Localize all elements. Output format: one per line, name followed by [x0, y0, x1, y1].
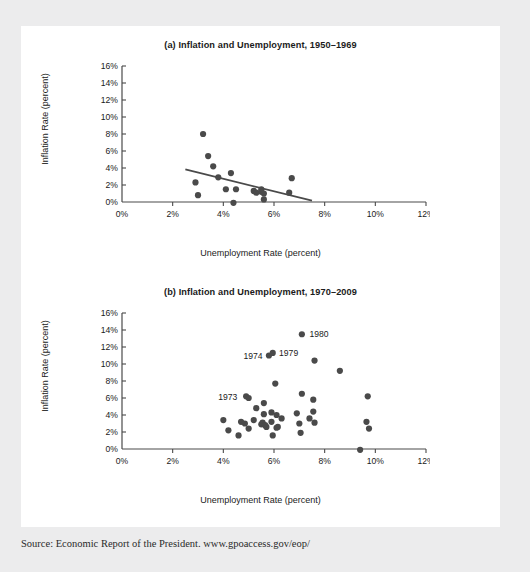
data-point	[270, 432, 276, 438]
data-point	[230, 200, 236, 206]
data-point	[200, 131, 206, 137]
source-note: Source: Economic Report of the President…	[21, 538, 310, 549]
point-annotation-label: 1980	[309, 329, 328, 339]
chart-a-plot-area: 0%2%4%6%8%10%12%0%2%4%6%8%10%12%14%16%	[100, 60, 430, 226]
data-point	[306, 415, 312, 421]
y-tick-label: 12%	[101, 95, 119, 105]
trend-line	[185, 169, 312, 200]
point-annotation-label: 1979	[279, 348, 298, 358]
data-point	[366, 426, 372, 432]
data-point	[273, 412, 279, 418]
data-point	[268, 419, 274, 425]
x-tick-label: 12%	[417, 456, 430, 466]
data-point	[310, 409, 316, 415]
chart-a-y-axis-label: Inflation Rate (percent)	[40, 49, 50, 189]
chart-b-title: (b) Inflation and Unemployment, 1970–200…	[21, 287, 500, 297]
x-tick-label: 6%	[268, 456, 281, 466]
x-tick-label: 4%	[217, 209, 230, 219]
data-point	[215, 174, 221, 180]
y-tick-label: 6%	[106, 393, 119, 403]
chart-b-x-axis-label: Unemployment Rate (percent)	[21, 495, 500, 505]
x-tick-label: 2%	[166, 456, 179, 466]
data-point	[220, 417, 226, 423]
x-tick-label: 0%	[116, 456, 129, 466]
y-tick-label: 10%	[101, 359, 119, 369]
chart-panel-b: (b) Inflation and Unemployment, 1970–200…	[21, 273, 500, 527]
y-tick-label: 6%	[106, 146, 119, 156]
y-tick-label: 16%	[101, 61, 119, 71]
data-point	[363, 419, 369, 425]
x-tick-label: 8%	[318, 209, 331, 219]
data-point	[205, 153, 211, 159]
chart-b-plot-area: 0%2%4%6%8%10%12%0%2%4%6%8%10%12%14%16%19…	[100, 307, 430, 473]
y-tick-label: 14%	[101, 78, 119, 88]
data-point	[225, 427, 231, 433]
y-tick-label: 2%	[106, 180, 119, 190]
chart-a-x-axis-label: Unemployment Rate (percent)	[21, 248, 500, 258]
data-point	[223, 186, 229, 192]
data-point	[192, 179, 198, 185]
chart-panel-a: (a) Inflation and Unemployment, 1950–196…	[21, 26, 500, 278]
data-point	[286, 190, 292, 196]
data-point	[357, 447, 363, 453]
page-background: (a) Inflation and Unemployment, 1950–196…	[0, 0, 530, 572]
y-tick-label: 8%	[106, 376, 119, 386]
x-tick-label: 10%	[367, 209, 385, 219]
x-tick-label: 12%	[417, 209, 430, 219]
data-point	[261, 196, 267, 202]
x-tick-label: 2%	[166, 209, 179, 219]
data-point	[253, 405, 259, 411]
point-annotation-label: 1974	[243, 351, 262, 361]
data-point	[296, 420, 302, 426]
chart-a-title: (a) Inflation and Unemployment, 1950–196…	[21, 40, 500, 50]
data-point	[246, 426, 252, 432]
data-point	[310, 397, 316, 403]
x-tick-label: 0%	[116, 209, 129, 219]
chart-b-y-axis-label: Inflation Rate (percent)	[40, 296, 50, 436]
y-tick-label: 12%	[101, 342, 119, 352]
data-point	[294, 410, 300, 416]
data-point	[337, 368, 343, 374]
data-point	[242, 420, 248, 426]
y-tick-label: 16%	[101, 308, 119, 318]
y-tick-label: 4%	[106, 163, 119, 173]
y-tick-label: 8%	[106, 129, 119, 139]
x-tick-label: 10%	[367, 456, 385, 466]
data-point	[275, 424, 281, 430]
y-tick-label: 4%	[106, 410, 119, 420]
x-tick-label: 6%	[268, 209, 281, 219]
data-point	[210, 163, 216, 169]
y-tick-label: 2%	[106, 427, 119, 437]
y-tick-label: 10%	[101, 112, 119, 122]
data-point	[279, 415, 285, 421]
data-point	[261, 400, 267, 406]
data-point	[246, 395, 252, 401]
data-point	[299, 391, 305, 397]
data-point	[272, 380, 278, 386]
data-point	[270, 350, 276, 356]
figure-card: (a) Inflation and Unemployment, 1950–196…	[21, 26, 500, 527]
data-point	[261, 411, 267, 417]
data-point	[289, 175, 295, 181]
data-point	[228, 170, 234, 176]
y-tick-label: 0%	[106, 197, 119, 207]
data-point	[263, 424, 269, 430]
data-point	[299, 331, 305, 337]
data-point	[298, 430, 304, 436]
x-tick-label: 8%	[318, 456, 331, 466]
data-point	[251, 417, 257, 423]
y-tick-label: 0%	[106, 444, 119, 454]
data-point	[311, 420, 317, 426]
data-point	[365, 393, 371, 399]
data-point	[235, 432, 241, 438]
data-point	[311, 358, 317, 364]
data-point	[195, 192, 201, 198]
point-annotation-label: 1973	[218, 392, 237, 402]
data-point	[233, 186, 239, 192]
y-tick-label: 14%	[101, 325, 119, 335]
x-tick-label: 4%	[217, 456, 230, 466]
data-point	[261, 190, 267, 196]
